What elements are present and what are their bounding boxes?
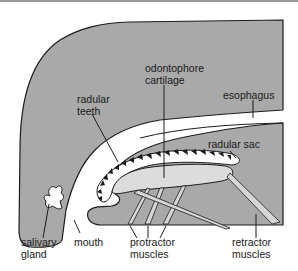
label-mouth: mouth bbox=[74, 236, 103, 248]
label-retractor-muscles: retractor muscles bbox=[232, 236, 274, 260]
label-protractor-muscles: protractor muscles bbox=[130, 236, 178, 260]
label-esophagus: esophagus bbox=[223, 89, 274, 101]
label-radular-sac: radular sac bbox=[208, 138, 260, 150]
radula-diagram: odontophore cartilage esophagus radular … bbox=[0, 0, 298, 271]
label-salivary-gland: salivary gland bbox=[21, 236, 60, 260]
